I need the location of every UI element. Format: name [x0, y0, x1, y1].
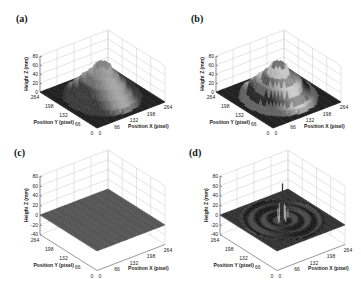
- z-tick-label: 60: [32, 183, 38, 189]
- z-tick-label: 60: [32, 62, 38, 68]
- x-tick-label: 66: [290, 124, 296, 130]
- x-tick-label: 66: [114, 266, 120, 272]
- y-tick-label: 66: [75, 264, 81, 270]
- z-tick-label: 20: [32, 80, 38, 86]
- subplot-a: (a) 020406080Height Z (mm)06613219826406…: [0, 0, 180, 144]
- subplot-d: (d) -40-20020406080Height Z (mm)06613219…: [180, 143, 360, 287]
- y-tick-label: 0: [91, 130, 94, 136]
- z-tick-label: 40: [32, 192, 38, 198]
- y-tick-label: 132: [239, 255, 248, 261]
- y-tick-label: 264: [31, 94, 40, 100]
- z-axis-label: Height Z (mm): [23, 188, 29, 222]
- y-tick-label: 198: [45, 246, 54, 252]
- z-tick-label: 60: [212, 183, 218, 189]
- y-tick-label: 66: [75, 121, 81, 127]
- x-tick-label: 0: [275, 130, 278, 136]
- x-tick-label: 198: [147, 111, 156, 117]
- y-axis-label: Position Y (pixel): [213, 262, 254, 268]
- x-tick-label: 264: [164, 104, 173, 110]
- x-tick-label: 66: [294, 266, 300, 272]
- y-axis-label: Position Y (pixel): [209, 119, 250, 125]
- y-tick-label: 198: [225, 246, 234, 252]
- z-tick-label: 0: [215, 212, 218, 218]
- y-tick-label: 132: [59, 112, 68, 118]
- z-tick-label: -20: [211, 222, 218, 228]
- x-axis-label: Position X (pixel): [128, 265, 169, 271]
- x-tick-label: 198: [327, 253, 336, 259]
- z-tick-label: 80: [32, 173, 38, 179]
- subplot-c: (c) -40-20020406080Height Z (mm)06613219…: [0, 143, 180, 287]
- z-tick-label: 80: [208, 53, 214, 59]
- z-tick-label: -20: [31, 222, 38, 228]
- y-axis-label: Position Y (pixel): [33, 119, 74, 125]
- z-tick-label: 40: [208, 71, 214, 77]
- y-tick-label: 0: [271, 273, 274, 279]
- x-axis-label: Position X (pixel): [304, 123, 345, 129]
- surface-plot-b: 020406080Height Z (mm)066132198264066132…: [180, 0, 360, 144]
- surface-plot-a: 020406080Height Z (mm)066132198264066132…: [0, 0, 180, 144]
- x-tick-label: 0: [99, 273, 102, 279]
- y-tick-label: 264: [211, 237, 220, 243]
- z-tick-label: 20: [32, 202, 38, 208]
- x-tick-label: 264: [340, 104, 349, 110]
- z-tick-label: 20: [208, 80, 214, 86]
- y-axis-label: Position Y (pixel): [33, 262, 74, 268]
- subplot-b: (b) 020406080Height Z (mm)06613219826406…: [180, 0, 360, 144]
- surface-plot-c: -40-20020406080Height Z (mm)066132198264…: [0, 143, 180, 287]
- z-tick-label: 20: [212, 202, 218, 208]
- x-axis-label: Position X (pixel): [308, 265, 349, 271]
- z-axis-label: Height Z (mm): [199, 57, 205, 91]
- y-tick-label: 0: [91, 273, 94, 279]
- z-tick-label: 60: [208, 62, 214, 68]
- surface-plot-d: -40-20020406080Height Z (mm)066132198264…: [180, 143, 360, 287]
- z-tick-label: 40: [32, 71, 38, 77]
- z-tick-label: 40: [212, 192, 218, 198]
- y-tick-label: 66: [255, 264, 261, 270]
- x-tick-label: 198: [147, 253, 156, 259]
- z-tick-label: 80: [32, 53, 38, 59]
- y-tick-label: 264: [31, 237, 40, 243]
- y-tick-label: 198: [221, 103, 230, 109]
- y-tick-label: 66: [251, 121, 257, 127]
- y-tick-label: 132: [235, 112, 244, 118]
- y-tick-label: 198: [45, 103, 54, 109]
- x-tick-label: 0: [279, 273, 282, 279]
- x-tick-label: 66: [114, 124, 120, 130]
- z-axis-label: Height Z (mm): [23, 57, 29, 91]
- y-tick-label: 0: [267, 130, 270, 136]
- x-tick-label: 264: [164, 247, 173, 253]
- y-tick-label: 264: [207, 94, 216, 100]
- z-axis-label: Height Z (mm): [203, 188, 209, 222]
- z-tick-label: 80: [212, 173, 218, 179]
- x-tick-label: 198: [323, 111, 332, 117]
- x-tick-label: 264: [344, 247, 353, 253]
- x-tick-label: 0: [99, 130, 102, 136]
- z-tick-label: 0: [35, 212, 38, 218]
- x-axis-label: Position X (pixel): [128, 123, 169, 129]
- y-tick-label: 132: [59, 255, 68, 261]
